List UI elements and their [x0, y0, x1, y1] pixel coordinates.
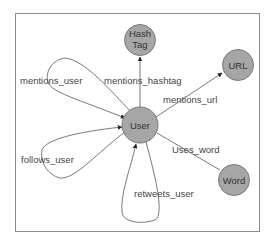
node-hashtag[interactable]: Hash Tag: [125, 25, 156, 56]
edge-retweets-user: [122, 142, 159, 222]
edge-label-mentions-user: mentions_user: [20, 75, 82, 86]
node-url[interactable]: URL: [223, 50, 254, 81]
node-user[interactable]: User: [122, 107, 158, 143]
node-hashtag-label-line1: Hash: [129, 28, 151, 39]
node-word[interactable]: Word: [219, 165, 250, 196]
graph-diagram: mentions_user mentions_hashtag mentions_…: [0, 0, 272, 242]
edge-label-retweets-user: retweets_user: [134, 188, 194, 199]
edge-label-mentions-url: mentions_url: [163, 94, 217, 105]
node-url-label: URL: [228, 60, 247, 71]
edge-label-uses-word: Uses_word: [172, 144, 220, 155]
edge-follows-user: [42, 127, 125, 178]
edge-mentions-user: [47, 58, 131, 118]
edge-label-follows-user: follows_user: [21, 154, 74, 165]
node-hashtag-label-line2: Tag: [132, 39, 147, 50]
node-user-label: User: [130, 120, 150, 131]
edge-label-mentions-hashtag: mentions_hashtag: [104, 75, 182, 86]
node-word-label: Word: [223, 175, 246, 186]
